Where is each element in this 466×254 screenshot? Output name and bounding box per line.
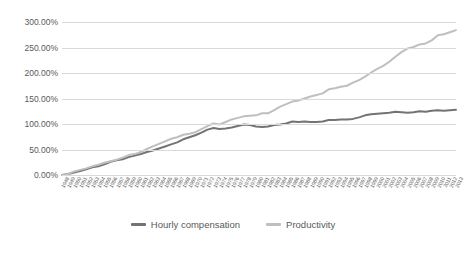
series-line <box>62 110 456 175</box>
chart-legend: Hourly compensationProductivity <box>0 219 466 230</box>
series-line <box>62 30 456 175</box>
gridline <box>62 73 456 74</box>
y-axis-tick-label: 200.00% <box>0 68 58 78</box>
legend-item[interactable]: Productivity <box>266 219 335 230</box>
gridline <box>62 22 456 23</box>
y-axis-tick-label: 50.00% <box>0 145 58 155</box>
y-axis-tick-label: 300.00% <box>0 17 58 27</box>
y-axis-tick-label: 150.00% <box>0 94 58 104</box>
legend-label: Productivity <box>286 219 335 230</box>
legend-swatch-icon <box>131 223 146 226</box>
gridline <box>62 150 456 151</box>
y-axis-tick-label: 250.00% <box>0 43 58 53</box>
legend-label: Hourly compensation <box>151 219 240 230</box>
y-axis: 300.00%250.00%200.00%150.00%100.00%50.00… <box>0 0 58 200</box>
gridline <box>62 48 456 49</box>
gridline <box>62 124 456 125</box>
x-axis: 1948194919501951195219531954195519561957… <box>62 176 456 210</box>
legend-item[interactable]: Hourly compensation <box>131 219 240 230</box>
productivity-compensation-chart: 300.00%250.00%200.00%150.00%100.00%50.00… <box>0 0 466 254</box>
plot-area <box>62 22 456 175</box>
y-axis-tick-label: 100.00% <box>0 119 58 129</box>
legend-swatch-icon <box>266 223 281 226</box>
gridline <box>62 99 456 100</box>
y-axis-tick-label: 0.00% <box>0 170 58 180</box>
